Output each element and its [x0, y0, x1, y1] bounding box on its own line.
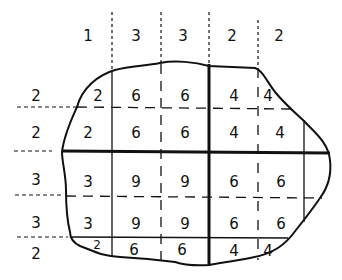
cell-value: 4: [229, 87, 239, 105]
column-weight: 1: [83, 27, 93, 45]
cell-value: 4: [229, 124, 239, 142]
cell-value: 9: [180, 215, 190, 233]
cell-value: 9: [131, 215, 141, 233]
column-weight: 2: [227, 27, 237, 45]
cell-value: 6: [177, 241, 187, 259]
cell-value: 2: [83, 124, 93, 142]
cell-value: 4: [263, 87, 273, 105]
cell-value: 6: [276, 173, 286, 191]
cell-value: 9: [131, 173, 141, 191]
cell-value: 6: [131, 124, 141, 142]
cell-value: 6: [276, 215, 286, 233]
cell-value: 2: [93, 87, 103, 105]
cell-value: 6: [180, 124, 190, 142]
row-weight: 2: [31, 245, 41, 263]
cell-value: 6: [129, 241, 139, 259]
cell-value: 3: [83, 215, 93, 233]
diagram-canvas: 1 3 3 2 2 2 2 3 3 2 2 6 6 4 4 2 6 6 4 4 …: [0, 0, 342, 280]
row-weight: 2: [31, 124, 41, 142]
cell-value: 3: [83, 173, 93, 191]
row-weight: 3: [31, 171, 41, 189]
cell-value: 9: [180, 173, 190, 191]
cell-value: 4: [275, 124, 285, 142]
cell-value: 4: [229, 242, 239, 260]
row-weight: 2: [31, 87, 41, 105]
cell-value: 6: [131, 87, 141, 105]
column-weight: 2: [274, 27, 284, 45]
column-weight: 3: [131, 27, 141, 45]
cell-value: 6: [229, 173, 239, 191]
column-weight: 3: [178, 27, 188, 45]
cell-value: 2: [93, 238, 101, 252]
weighted-grid-diagram: 1 3 3 2 2 2 2 3 3 2 2 6 6 4 4 2 6 6 4 4 …: [0, 0, 342, 280]
cell-value: 6: [180, 87, 190, 105]
cell-value: 6: [229, 215, 239, 233]
row-weight: 3: [31, 214, 41, 232]
cell-value: 4: [263, 242, 273, 260]
